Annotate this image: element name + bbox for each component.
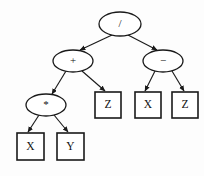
tree-edge-minus-to-leafX2 bbox=[145, 71, 155, 91]
tree-edge-times-to-leafY1 bbox=[54, 115, 68, 132]
tree-edge-minus-to-leafZ2 bbox=[172, 71, 184, 91]
node-label-minus: − bbox=[160, 54, 166, 66]
tree-node-root[interactable]: / bbox=[99, 12, 141, 36]
tree-edge-plus-to-leafZ1 bbox=[82, 71, 105, 91]
tree-node-leafY1[interactable]: Y bbox=[57, 133, 84, 160]
tree-node-leafZ1[interactable]: Z bbox=[95, 92, 121, 118]
tree-canvas: /+−*ZXZXY bbox=[0, 0, 204, 176]
tree-edge-root-to-plus bbox=[80, 35, 112, 50]
tree-node-leafX2[interactable]: X bbox=[135, 92, 161, 118]
tree-edge-times-to-leafX1 bbox=[28, 115, 39, 132]
tree-node-plus[interactable]: + bbox=[53, 50, 93, 72]
node-label-leafX1: X bbox=[26, 140, 35, 152]
node-label-plus: + bbox=[70, 54, 76, 66]
tree-edge-root-to-minus bbox=[128, 35, 157, 50]
node-label-leafZ1: Z bbox=[104, 98, 111, 110]
tree-node-times[interactable]: * bbox=[26, 94, 66, 116]
nodes-layer: /+−*ZXZXY bbox=[17, 12, 198, 160]
tree-edge-plus-to-times bbox=[52, 71, 66, 94]
node-label-leafY1: Y bbox=[66, 140, 75, 152]
expression-tree-figure: /+−*ZXZXY bbox=[0, 0, 204, 176]
tree-node-leafX1[interactable]: X bbox=[17, 133, 44, 160]
tree-node-minus[interactable]: − bbox=[143, 50, 183, 72]
node-label-times: * bbox=[43, 98, 49, 110]
node-label-leafZ2: Z bbox=[181, 98, 188, 110]
tree-node-leafZ2[interactable]: Z bbox=[172, 92, 198, 118]
node-label-leafX2: X bbox=[144, 98, 153, 110]
